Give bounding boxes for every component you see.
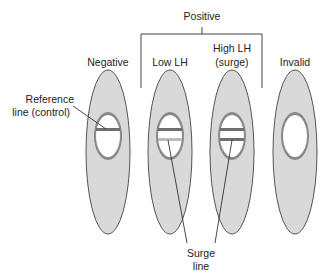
control-line bbox=[96, 128, 120, 131]
control-line bbox=[220, 128, 244, 131]
reference-callout-line1: Reference bbox=[14, 93, 74, 105]
faint-test-line bbox=[158, 138, 182, 141]
high-lh-label-line2: (surge) bbox=[206, 56, 258, 68]
negative-label: Negative bbox=[80, 56, 136, 68]
control-line bbox=[158, 128, 182, 131]
strip-invalid bbox=[273, 70, 317, 234]
strip-high-lh bbox=[210, 70, 254, 234]
surge-callout-line1: Surge bbox=[182, 247, 220, 259]
invalid-label: Invalid bbox=[272, 56, 318, 68]
high-lh-label-line1: High LH bbox=[206, 42, 258, 54]
reference-callout-line2: line (control) bbox=[0, 106, 70, 118]
positive-label: Positive bbox=[180, 10, 224, 22]
diagram-canvas bbox=[0, 0, 328, 280]
low-lh-label: Low LH bbox=[146, 56, 194, 68]
strip-negative bbox=[86, 70, 130, 234]
surge-callout-line2: line bbox=[182, 260, 220, 272]
